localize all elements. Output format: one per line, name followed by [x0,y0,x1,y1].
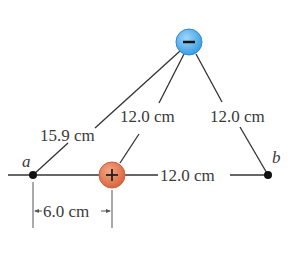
line-neg-to-a-lower [33,143,68,175]
label-neg-to-a: 15.9 cm [40,126,95,145]
label-neg-to-pos: 12.0 cm [120,107,175,126]
label-a-to-pos: 6.0 cm [43,202,89,221]
line-neg-to-pos-lower [120,134,139,163]
arrowhead-right [106,209,111,213]
line-neg-to-pos-upper [159,54,184,103]
label-b: b [272,148,281,167]
label-a: a [22,152,31,171]
label-neg-to-b: 12.0 cm [210,107,265,126]
point-a [29,171,37,179]
point-b [264,171,272,179]
line-neg-to-b-lower [240,127,268,175]
line-neg-to-b-upper [196,54,222,102]
label-pos-to-b: 12.0 cm [160,166,215,185]
electric-dipole-diagram: a b 15.9 cm 12.0 cm 12.0 cm 12.0 cm 6.0 … [0,0,301,260]
arrowhead-left [34,209,39,213]
